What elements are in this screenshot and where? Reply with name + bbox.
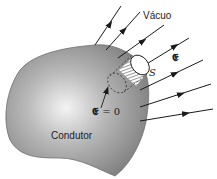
conductor-label: Condutor (51, 130, 92, 141)
field-label: 𝕰 (172, 52, 179, 64)
field-line-1 (95, 6, 121, 45)
field-symbol: 𝕰 (92, 106, 99, 117)
field-line-7 (140, 109, 213, 121)
conductor-diagram (0, 0, 217, 179)
surface-label: S (149, 67, 156, 78)
field-line-4 (145, 38, 189, 65)
field-line-3 (118, 25, 164, 58)
field-line-6 (140, 84, 211, 107)
field-zero-value: = 0 (99, 106, 120, 117)
vacuum-label: Vácuo (143, 10, 171, 21)
field-zero-label: 𝕰 = 0 (92, 106, 120, 118)
